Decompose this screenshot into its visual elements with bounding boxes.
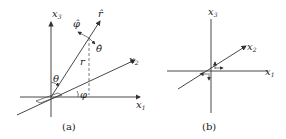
phi-arc <box>77 91 78 97</box>
theta-label: θ <box>53 73 59 84</box>
origin-loop <box>36 93 62 103</box>
x2-axis <box>178 46 246 89</box>
x2-label: x2 <box>129 54 139 66</box>
caption-b: (b) <box>202 121 216 132</box>
x1-label: x1 <box>265 66 274 78</box>
x3-label: x3 <box>52 8 62 20</box>
theta-hat-arrow <box>89 38 95 44</box>
r-label: r <box>80 56 86 67</box>
x2-axis <box>17 60 135 115</box>
panel-a: x3 r̂ φ̂ θ̂ r x2 θ φ x1 (a) <box>17 8 145 132</box>
phi-label: φ <box>80 89 87 100</box>
r-hat-label: r̂ <box>98 8 104 19</box>
phi-hat-arrow <box>78 32 89 38</box>
x2-label: x2 <box>247 41 257 53</box>
x3-label: x3 <box>208 6 218 18</box>
spherical-coordinates-diagram: x3 r̂ φ̂ θ̂ r x2 θ φ x1 (a) x3 x2 x1 (b) <box>0 0 286 139</box>
panel-b: x3 x2 x1 (b) <box>167 6 274 132</box>
phi-hat-label: φ̂ <box>73 18 80 29</box>
theta-hat-label: θ̂ <box>96 43 102 54</box>
caption-a: (a) <box>62 121 76 132</box>
x1-label: x1 <box>136 99 145 111</box>
